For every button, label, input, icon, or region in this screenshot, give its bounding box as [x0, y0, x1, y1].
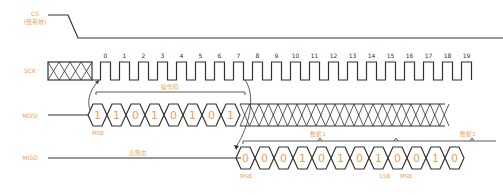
- cs-signal: CS (低有效): [24, 10, 503, 38]
- bit-value: 1: [299, 152, 306, 165]
- bit-value: 0: [394, 152, 401, 165]
- sck-tick-label: 18: [444, 52, 452, 59]
- bit-value: 1: [94, 109, 101, 122]
- sck-tick-label: 10: [292, 52, 300, 59]
- sck-tick-label: 14: [368, 52, 376, 59]
- sck-tick-label: 19: [463, 52, 471, 59]
- sck-tick-label: 11: [311, 52, 319, 59]
- sck-undefined-box: [48, 62, 92, 80]
- sck-tick-label: 2: [142, 52, 146, 59]
- sck-to-miso-arrow: [236, 80, 251, 147]
- sck-tick-label: 6: [218, 52, 222, 59]
- mosi-msb-label: MSB: [92, 130, 104, 136]
- sck-tick-labels: 012345678910111213141516171819: [104, 52, 471, 59]
- bit-value: 0: [356, 152, 363, 165]
- bit-value: 0: [208, 109, 215, 122]
- cs-waveform: [48, 15, 503, 38]
- bit-value: 1: [113, 109, 120, 122]
- bit-value: 1: [189, 109, 196, 122]
- sck-tick-label: 3: [161, 52, 165, 59]
- mosi-to-sck-arrow: [89, 80, 99, 110]
- sck-tick-label: 0: [104, 52, 108, 59]
- sck-signal: SCK 012345678910111213141516171819: [24, 52, 471, 80]
- sck-tick-label: 4: [180, 52, 184, 59]
- mosi-label: MOSI: [22, 112, 38, 119]
- bit-value: 0: [413, 152, 420, 165]
- bit-value: 1: [151, 109, 158, 122]
- sck-tick-label: 5: [199, 52, 203, 59]
- data-bracket-marks: [318, 138, 474, 141]
- arrow-head-icon: [234, 145, 239, 150]
- sck-tick-label: 12: [330, 52, 338, 59]
- miso-msb-label: MSB: [240, 173, 252, 179]
- data1-label: 数据1: [310, 130, 326, 138]
- sck-tick-label: 8: [256, 52, 260, 59]
- sck-tick-label: 17: [425, 52, 433, 59]
- miso-label: MISO: [22, 154, 38, 161]
- bit-value: 0: [451, 152, 458, 165]
- bit-value: 0: [132, 109, 139, 122]
- bit-value: 0: [280, 152, 287, 165]
- sck-undefined-region: [48, 62, 92, 80]
- mosi-undefined-region: [240, 104, 449, 126]
- miso-msb2-label: MSB: [400, 173, 412, 179]
- cs-active-low-label: (低有效): [24, 18, 47, 26]
- sck-tick-label: 16: [406, 52, 414, 59]
- bit-value: 0: [261, 152, 268, 165]
- miso-signal: MISO 高阻态 000101010010 数据1 数据2 MSB LSB MS…: [22, 130, 496, 179]
- sck-tick-label: 13: [349, 52, 357, 59]
- opcode-bracket: [96, 92, 245, 95]
- mosi-signal: MOSI 11010101 操作码 MSB: [22, 80, 449, 150]
- sck-waveform: [92, 62, 472, 80]
- bit-value: 0: [318, 152, 325, 165]
- data2-label: 数据2: [460, 130, 476, 138]
- spi-timing-diagram: CS (低有效) SCK 012345678910111213141516171…: [0, 0, 503, 195]
- bit-value: 1: [227, 109, 234, 122]
- bit-value: 0: [242, 152, 249, 165]
- miso-bit-cells: 000101010010: [236, 147, 464, 169]
- opcode-label: 操作码: [161, 83, 179, 91]
- bit-value: 1: [337, 152, 344, 165]
- data-bracket: [243, 141, 496, 144]
- sck-tick-label: 9: [275, 52, 279, 59]
- sck-tick-label: 15: [387, 52, 395, 59]
- miso-lsb-label: LSB: [380, 173, 391, 179]
- cs-label: CS: [31, 10, 39, 17]
- sck-tick-label: 7: [237, 52, 241, 59]
- bit-value: 1: [375, 152, 382, 165]
- sck-label: SCK: [24, 67, 37, 74]
- bit-value: 1: [432, 152, 439, 165]
- sck-tick-label: 1: [123, 52, 127, 59]
- mosi-bit-cells: 11010101: [88, 104, 240, 126]
- bit-value: 0: [170, 109, 177, 122]
- high-impedance-label: 高阻态: [129, 149, 147, 157]
